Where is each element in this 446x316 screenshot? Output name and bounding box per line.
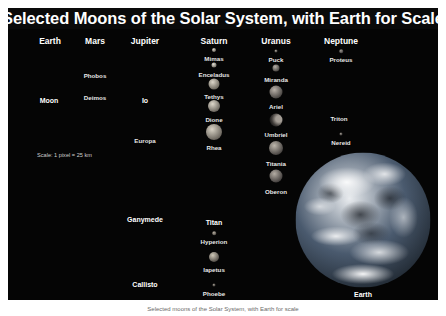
- moon-label-miranda: Miranda: [264, 76, 288, 83]
- moon-body-dione: [208, 100, 220, 112]
- moon-body-rhea: [206, 124, 222, 140]
- column-header-saturn: Saturn: [201, 36, 228, 46]
- moon-label-phoebe: Phoebe: [203, 290, 225, 297]
- column-header-jupiter: Jupiter: [131, 36, 159, 46]
- moon-body-enceladus: [212, 63, 217, 68]
- column-header-neptune: Neptune: [324, 36, 358, 46]
- moon-body-titan: [186, 158, 242, 214]
- moon-label-mimas: Mimas: [204, 55, 223, 62]
- moon-body-ganymede: [122, 166, 169, 213]
- moon-body-tethys: [209, 79, 220, 90]
- moon-label-europa: Europa: [134, 137, 155, 144]
- earth-label: Earth: [354, 291, 372, 298]
- moon-label-umbriel: Umbriel: [264, 131, 287, 138]
- moon-label-oberon: Oberon: [265, 188, 287, 195]
- scale-note: Scale: 1 pixel = 25 km: [37, 152, 92, 158]
- moon-body-oberon: [270, 170, 283, 183]
- moon-label-deimos: Deimos: [84, 94, 106, 101]
- moon-label-enceladus: Enceladus: [199, 71, 230, 78]
- earth-globe-icon: [296, 153, 431, 288]
- moon-body-proteus: [339, 49, 343, 53]
- moon-body-moon: [31, 57, 68, 94]
- moon-body-europa: [132, 107, 159, 134]
- moon-label-dione: Dione: [205, 116, 222, 123]
- moon-label-titania: Titania: [266, 160, 286, 167]
- moon-label-triton: Triton: [330, 115, 347, 122]
- moon-label-puck: Puck: [269, 56, 284, 63]
- moon-label-ganymede: Ganymede: [127, 216, 163, 223]
- page-title: Selected Moons of the Solar System, with…: [8, 8, 438, 29]
- moon-body-phoebe: [213, 284, 216, 287]
- poster-title-bar: Selected Moons of the Solar System, with…: [8, 8, 438, 29]
- moon-label-callisto: Callisto: [132, 281, 157, 288]
- moon-body-iapetus: [209, 252, 219, 262]
- poster-canvas: Selected Moons of the Solar System, with…: [8, 8, 438, 300]
- moon-label-tethys: Tethys: [204, 93, 223, 100]
- moon-label-moon: Moon: [40, 97, 59, 104]
- moon-label-io: Io: [142, 97, 148, 104]
- moon-label-nereid: Nereid: [331, 139, 350, 146]
- moon-label-rhea: Rhea: [206, 144, 221, 151]
- moon-label-iapetus: Iapetus: [203, 266, 225, 273]
- moon-body-titania: [269, 141, 283, 155]
- moon-body-puck: [275, 50, 278, 53]
- moon-body-umbriel: [270, 114, 283, 127]
- moon-label-titan: Titan: [206, 219, 223, 226]
- column-header-earth: Earth: [39, 36, 61, 46]
- moon-label-hyperion: Hyperion: [201, 238, 228, 245]
- moon-body-hyperion: [212, 231, 216, 235]
- figure-caption: Selected moons of the Solar System, with…: [0, 306, 446, 312]
- column-header-uranus: Uranus: [261, 36, 290, 46]
- moon-label-ariel: Ariel: [269, 103, 283, 110]
- moon-body-io: [129, 61, 161, 93]
- moon-body-callisto: [124, 234, 167, 277]
- column-header-mars: Mars: [85, 36, 105, 46]
- moon-label-proteus: Proteus: [329, 56, 352, 63]
- moon-body-triton: [326, 81, 353, 108]
- moon-body-mimas: [212, 48, 216, 52]
- moon-body-ariel: [270, 86, 283, 99]
- moon-body-miranda: [273, 65, 280, 72]
- moon-body-nereid: [340, 133, 343, 136]
- moon-label-phobos: Phobos: [84, 72, 107, 79]
